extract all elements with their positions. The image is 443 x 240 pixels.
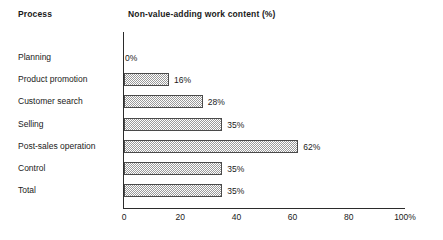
column-header-process: Process [18,9,52,19]
bar-value-label: 16% [174,75,191,85]
bar [124,73,169,86]
x-tick-label: 40 [232,212,241,222]
table-row: Product promotion16% [0,70,443,91]
table-row: Customer search28% [0,92,443,113]
x-tick-label: 60 [288,212,297,222]
table-row: Planning0% [0,48,443,69]
row-label-total: Total [18,185,36,195]
bar [124,95,203,108]
row-label-product-promotion: Product promotion [18,74,87,84]
x-tick-label: 100% [394,212,416,222]
bar-value-label: 62% [303,142,320,152]
x-tick-label: 80 [344,212,353,222]
row-label-post-sales-operation: Post-sales operation [18,141,96,151]
table-row: Control35% [0,159,443,180]
row-label-control: Control [18,163,45,173]
table-row: Total35% [0,181,443,202]
row-label-customer-search: Customer search [18,96,83,106]
x-tick-label: 0 [122,212,127,222]
bar-chart: Process Non-value-adding work content (%… [0,0,443,240]
row-label-selling: Selling [18,119,44,129]
bar [124,184,222,197]
table-row: Post-sales operation62% [0,137,443,158]
bar [124,118,222,131]
bar-value-label: 35% [227,164,244,174]
table-row: Selling35% [0,115,443,136]
bar [124,140,298,153]
chart-title: Non-value-adding work content (%) [128,9,276,19]
x-axis-line [123,208,405,209]
bar [124,162,222,175]
bar-value-label: 0% [125,53,137,63]
bar-value-label: 35% [227,120,244,130]
bar-value-label: 35% [227,186,244,196]
x-tick-label: 20 [175,212,184,222]
row-label-planning: Planning [18,52,51,62]
bar-value-label: 28% [208,97,225,107]
